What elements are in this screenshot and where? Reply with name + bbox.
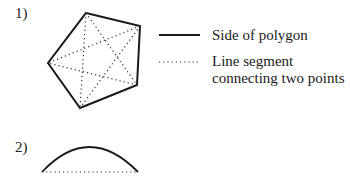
figure-2-number: 2) xyxy=(15,139,28,155)
arc xyxy=(42,147,138,172)
pentagon-sides xyxy=(48,13,140,108)
pentagon-diagonals xyxy=(48,13,140,108)
legend-dotted-label-line2: connecting two points xyxy=(212,70,344,86)
legend-solid-label: Side of polygon xyxy=(212,27,308,43)
legend-dotted-label-line1: Line segment xyxy=(212,53,293,69)
